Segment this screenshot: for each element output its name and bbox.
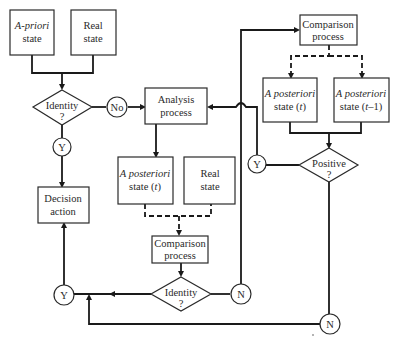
no-label: No [111,102,124,113]
decision-label-2: action [50,206,76,217]
comparison-mid-label-2: process [164,250,196,261]
real-state-label-2: state [83,33,103,44]
connector-n-bottom-return [89,298,320,324]
aposteriori-label-2: state (t) [129,181,161,193]
aposteriori-t-box: A posteriori state (t) [263,78,317,122]
comparison-top-label-2: process [312,31,344,42]
comparison-top-label: Comparison [302,19,354,30]
aposteriori-label: A posteriori [119,168,170,179]
identity-bottom-label: Identity [165,287,198,298]
identity-bottom-diamond: Identity ? [151,277,211,311]
aposteriori-t-label: A posteriori [264,88,315,99]
connector-aposteriori-merge [290,122,361,133]
aposteriori-t1-label-2: state (t–1) [340,101,383,113]
n-circle-bottom: N [320,314,340,334]
y-right-label: Y [253,159,261,170]
flowchart: A-priori state Real state Identity ? No … [0,0,399,342]
analysis-label: Analysis [158,94,195,105]
apriori-state-box: A-priori state [10,10,54,55]
arrow-head [176,230,182,236]
y-label: Y [58,142,66,153]
n-mid-label: N [237,289,245,300]
identity-top-diamond: Identity ? [33,90,92,125]
y-bottom-label: Y [60,290,68,301]
positive-diamond: Positive ? [299,148,358,182]
aposteriori-t1-box: A posteriori state (t–1) [334,78,389,122]
connector-n-comparison-top [241,30,296,284]
arrow-head [178,271,184,277]
arrow-head [109,291,115,297]
comparison-mid-label: Comparison [154,238,206,249]
identity-label: Identity [46,100,79,111]
y-circle-top: Y [53,138,71,156]
positive-q: ? [327,169,332,180]
aposteriori-t-label-2: state (t) [274,101,306,113]
dashed-connector-top-right [329,56,362,75]
print-speck [312,334,314,336]
analysis-process-box: Analysis process [145,88,207,124]
identity-bottom-q: ? [179,298,184,309]
y-circle-bottom: Y [54,285,74,305]
arrow-head [59,84,65,90]
n-circle-mid: N [231,284,251,304]
real-state-mid-label: Real [200,168,219,179]
positive-label: Positive [312,158,346,169]
real-state-label: Real [83,20,102,31]
connector-apriori [32,55,93,73]
arrow-head [207,104,213,110]
decision-action-box: Decision action [38,187,89,223]
real-state-top-box: Real state [71,10,116,55]
comparison-top-box: Comparison process [300,15,357,45]
real-state-mid-label-2: state [200,181,220,192]
decision-label: Decision [44,193,82,204]
y-circle-right: Y [248,155,266,173]
apriori-label: A-priori [14,20,50,31]
n-bottom-label: N [326,319,334,330]
apriori-label-2: state [22,33,42,44]
analysis-label-2: process [160,107,192,118]
connector-y-analysis [211,103,257,155]
identity-q: ? [60,111,65,122]
real-state-mid-box: Real state [184,157,235,204]
arrow-head [294,27,300,33]
aposteriori-mid-box: A posteriori state (t) [118,157,173,204]
dashed-connector-top [291,45,329,75]
aposteriori-t1-label: A posteriori [335,88,386,99]
no-circle: No [107,97,127,117]
dashed-connector-mid [145,204,211,216]
comparison-mid-box: Comparison process [152,236,208,263]
